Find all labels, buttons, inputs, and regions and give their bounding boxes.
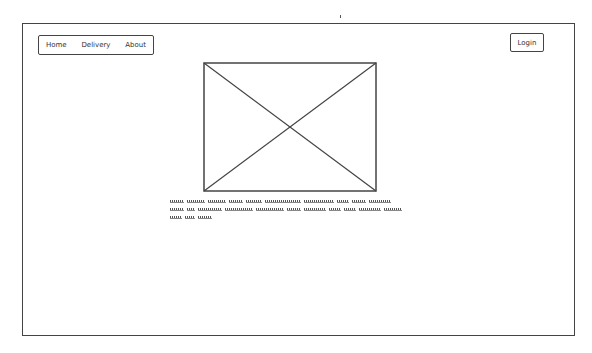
scribble-word bbox=[198, 216, 212, 219]
scribble-word bbox=[187, 200, 205, 203]
scribble-word bbox=[170, 216, 182, 219]
main-nav: Home Delivery About bbox=[38, 35, 154, 55]
scribble-word bbox=[185, 216, 195, 219]
scribble-word bbox=[287, 208, 301, 211]
scribble-word bbox=[170, 200, 184, 203]
scribble-word bbox=[329, 208, 341, 211]
scribble-word bbox=[198, 208, 222, 211]
nav-item-delivery[interactable]: Delivery bbox=[81, 41, 110, 49]
nav-item-home[interactable]: Home bbox=[46, 41, 67, 49]
scribble-word bbox=[369, 200, 391, 203]
caption-line bbox=[170, 213, 415, 221]
scribble-word bbox=[225, 208, 253, 211]
scribble-word bbox=[208, 200, 226, 203]
scribble-word bbox=[304, 208, 326, 211]
scribble-word bbox=[352, 200, 366, 203]
scribble-word bbox=[246, 200, 262, 203]
scribble-word bbox=[384, 208, 402, 211]
scribble-word bbox=[265, 200, 301, 203]
scribble-word bbox=[337, 200, 349, 203]
scribble-word bbox=[187, 208, 195, 211]
image-placeholder-icon bbox=[203, 62, 377, 192]
scribble-word bbox=[359, 208, 381, 211]
scribble-word bbox=[256, 208, 284, 211]
frame-mark bbox=[340, 15, 341, 18]
nav-item-about[interactable]: About bbox=[125, 41, 146, 49]
caption-line bbox=[170, 197, 415, 205]
scribble-word bbox=[304, 200, 334, 203]
scribble-word bbox=[229, 200, 243, 203]
scribble-word bbox=[344, 208, 356, 211]
caption-line bbox=[170, 205, 415, 213]
caption-placeholder-text bbox=[170, 197, 415, 221]
scribble-word bbox=[170, 208, 184, 211]
login-button[interactable]: Login bbox=[510, 33, 544, 52]
